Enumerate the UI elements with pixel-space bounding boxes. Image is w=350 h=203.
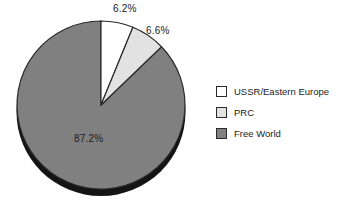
legend-label-ussr-eastern-europe: USSR/Eastern Europe (234, 86, 329, 97)
legend-label-prc: PRC (234, 107, 254, 118)
legend-swatch-ussr-eastern-europe (216, 86, 227, 97)
slice-label-free-world: 87.2% (74, 133, 103, 144)
legend-label-free-world: Free World (234, 128, 281, 139)
legend-item-ussr-eastern-europe: USSR/Eastern Europe (216, 83, 348, 99)
slice-label-ussr-eastern-europe: 6.2% (113, 3, 137, 14)
legend: USSR/Eastern Europe PRC Free World (216, 83, 348, 141)
legend-swatch-free-world (216, 128, 227, 139)
legend-item-prc: PRC (216, 104, 348, 120)
slice-label-prc: 6.6% (146, 25, 170, 36)
pie-plot-area: 6.2% 6.6% 87.2% (0, 0, 205, 203)
pie-chart: 6.2% 6.6% 87.2% USSR/Eastern Europe PRC … (0, 0, 350, 203)
legend-swatch-prc (216, 107, 227, 118)
legend-item-free-world: Free World (216, 125, 348, 141)
pie-svg (0, 0, 205, 203)
